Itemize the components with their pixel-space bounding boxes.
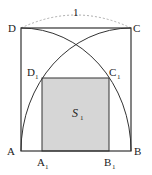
vertex-c-label: C — [133, 22, 140, 34]
svg-text:1: 1 — [112, 163, 116, 171]
geometry-figure: 1 D C A B D 1 C 1 A 1 B 1 S 1 — [0, 0, 152, 175]
vertex-d1-label: D 1 — [27, 66, 39, 81]
vertex-a1-label: A 1 — [37, 156, 49, 171]
svg-text:1: 1 — [45, 163, 49, 171]
vertex-b-label: B — [134, 145, 141, 157]
side-length-label: 1 — [73, 6, 79, 18]
svg-text:1: 1 — [80, 114, 84, 122]
svg-text:A: A — [37, 156, 45, 168]
svg-text:1: 1 — [35, 73, 39, 81]
svg-text:1: 1 — [117, 73, 121, 81]
svg-text:D: D — [27, 66, 35, 78]
vertex-b1-label: B 1 — [104, 156, 116, 171]
vertex-d-label: D — [8, 22, 16, 34]
svg-text:B: B — [104, 156, 111, 168]
svg-text:C: C — [109, 66, 116, 78]
svg-text:S: S — [72, 106, 78, 120]
vertex-a-label: A — [7, 145, 15, 157]
vertex-c1-label: C 1 — [109, 66, 121, 81]
